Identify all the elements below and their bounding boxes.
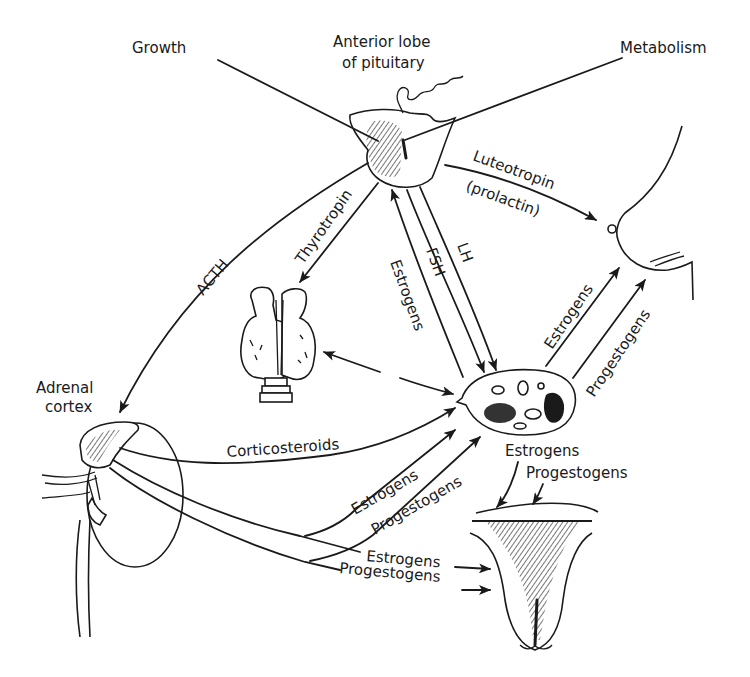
growth-line xyxy=(218,60,378,141)
thyroid-organ xyxy=(241,287,315,402)
ovary-breast-progestogens-label: Progestogens xyxy=(582,306,654,400)
thyroid-ovary-arrow xyxy=(400,378,453,394)
adrenal-organ xyxy=(42,422,183,637)
endocrine-diagram: Anterior lobe of pituitary Growth Metabo… xyxy=(0,0,750,677)
pituitary-organ xyxy=(350,76,463,187)
ovary-out-progestogens-label: Progestogens xyxy=(526,464,628,482)
adrenal-ovary-progestogens-arrow xyxy=(310,437,480,561)
acth-label: ACTH xyxy=(192,256,232,299)
ovary-out-estrogens-label: Estrogens xyxy=(505,442,579,460)
metabolism-line xyxy=(405,58,622,140)
breast-organ xyxy=(608,126,693,300)
estrogens-feedback-label: Estrogens xyxy=(386,257,428,333)
pituitary-label: Anterior lobe xyxy=(333,33,430,51)
adrenal-uterus-estrogens-arrow xyxy=(455,567,490,569)
uterus-organ xyxy=(470,503,598,650)
ovary-uterus-progestogens-arrow xyxy=(533,484,543,504)
adrenal-label-2: cortex xyxy=(45,398,92,416)
ovary-uterus-estrogens-arrow xyxy=(497,462,518,507)
corticosteroids-label: Corticosteroids xyxy=(226,435,340,461)
lh-label: LH xyxy=(453,240,477,265)
thyrotropin-label: Thyrotropin xyxy=(291,186,356,268)
pituitary-label-2: of pituitary xyxy=(342,54,425,72)
growth-label: Growth xyxy=(132,39,186,57)
lh-arrow xyxy=(420,187,496,370)
ovary-breast-estrogens-label: Estrogens xyxy=(540,280,597,352)
ovary-thyroid-arrow xyxy=(324,352,380,372)
adrenal-label: Adrenal xyxy=(36,379,93,397)
fsh-arrow xyxy=(407,190,484,372)
fsh-label: FSH xyxy=(422,245,449,279)
metabolism-label: Metabolism xyxy=(620,39,707,57)
ovary-organ xyxy=(457,370,575,435)
adrenal-line-lower xyxy=(110,468,340,570)
